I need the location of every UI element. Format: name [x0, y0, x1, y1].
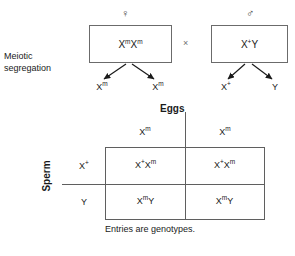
female-gamete-label-2: Xm [144, 82, 172, 93]
punnett-cell-genotype: X+Xm [135, 160, 156, 171]
punnett-column-header-2: Xm [185, 127, 265, 138]
male-gamete-arrow-right [252, 64, 272, 79]
punnett-cell-genotype: XmY [216, 196, 233, 207]
diagram-caption: Entries are genotypes. [105, 224, 195, 235]
punnett-column-header-1: Xm [105, 127, 185, 138]
punnett-row-header-2: Y [70, 197, 98, 208]
sperm-axis-label: Sperm [41, 160, 52, 191]
eggs-axis-label: Eggs [160, 103, 184, 114]
female-gamete-arrow-right [132, 64, 154, 79]
female-gamete-arrow-left [104, 64, 126, 79]
punnett-vertical-divider [185, 112, 186, 220]
punnett-cell-1-1: X+Xm [106, 148, 185, 184]
punnett-row-header-1: X+ [70, 161, 98, 172]
punnett-cell-2-2: XmY [185, 184, 264, 220]
male-gamete-label-1: X+ [212, 82, 240, 93]
male-gamete-arrow-left [228, 64, 245, 79]
punnett-cell-genotype: XmY [137, 196, 154, 207]
female-gamete-label-1: Xm [88, 82, 116, 93]
punnett-cell-genotype: X+Xm [214, 160, 235, 171]
genetics-cross-diagram: Meiotic segregation ♀ XmXm × ♂ X+Y Xm Xm… [0, 0, 295, 256]
punnett-horizontal-divider [62, 184, 265, 185]
punnett-cell-2-1: XmY [106, 184, 185, 220]
punnett-cell-1-2: X+Xm [185, 148, 264, 184]
male-gamete-label-2: Y [264, 82, 286, 93]
